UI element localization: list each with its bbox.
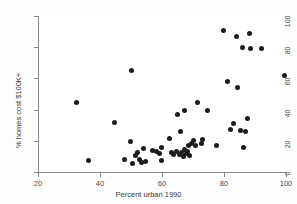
scatter-plot-figure: 020406080100 20406080100 % homes cost $1… (0, 0, 297, 204)
y-tick-mark (34, 110, 38, 111)
data-point (143, 159, 148, 164)
y-tick-mark (34, 78, 38, 79)
x-tick-mark (162, 173, 163, 177)
data-point (175, 112, 180, 117)
x-tick-mark (286, 173, 287, 177)
data-point (238, 128, 243, 133)
data-point (231, 121, 236, 126)
data-point (191, 138, 196, 143)
y-tick-mark (34, 47, 38, 48)
y-tick-label: 80 (284, 47, 291, 69)
y-axis-title: % homes cost $100K+ (14, 73, 23, 148)
data-point (282, 73, 287, 78)
x-tick-label: 100 (280, 179, 293, 188)
data-point (135, 150, 140, 155)
data-point (228, 127, 233, 132)
x-axis-title: Percent urban 1990 (0, 190, 297, 199)
data-point (193, 143, 198, 148)
data-point (159, 145, 164, 150)
data-point (122, 157, 127, 162)
y-tick-mark (34, 16, 38, 17)
x-tick-mark (100, 173, 101, 177)
data-point (159, 158, 164, 163)
data-point (214, 143, 219, 148)
data-point (129, 68, 134, 73)
data-point (141, 146, 146, 151)
data-point (157, 151, 162, 156)
y-tick-label: 100 (284, 16, 291, 38)
y-tick-label: 20 (284, 140, 291, 162)
y-tick-label: 60 (284, 78, 291, 100)
data-point (178, 129, 183, 134)
x-tick-label: 40 (96, 179, 104, 188)
data-point (74, 100, 79, 105)
data-point (247, 31, 252, 36)
x-tick-label: 80 (220, 179, 228, 188)
x-tick-mark (38, 173, 39, 177)
data-point (245, 116, 250, 121)
x-tick-label: 60 (158, 179, 166, 188)
data-point (167, 136, 172, 141)
y-axis-line (38, 16, 39, 173)
y-tick-label: 40 (284, 109, 291, 131)
x-tick-mark (224, 173, 225, 177)
x-tick-label: 20 (34, 179, 42, 188)
y-tick-mark (34, 141, 38, 142)
data-point (221, 28, 226, 33)
data-point (234, 34, 239, 39)
